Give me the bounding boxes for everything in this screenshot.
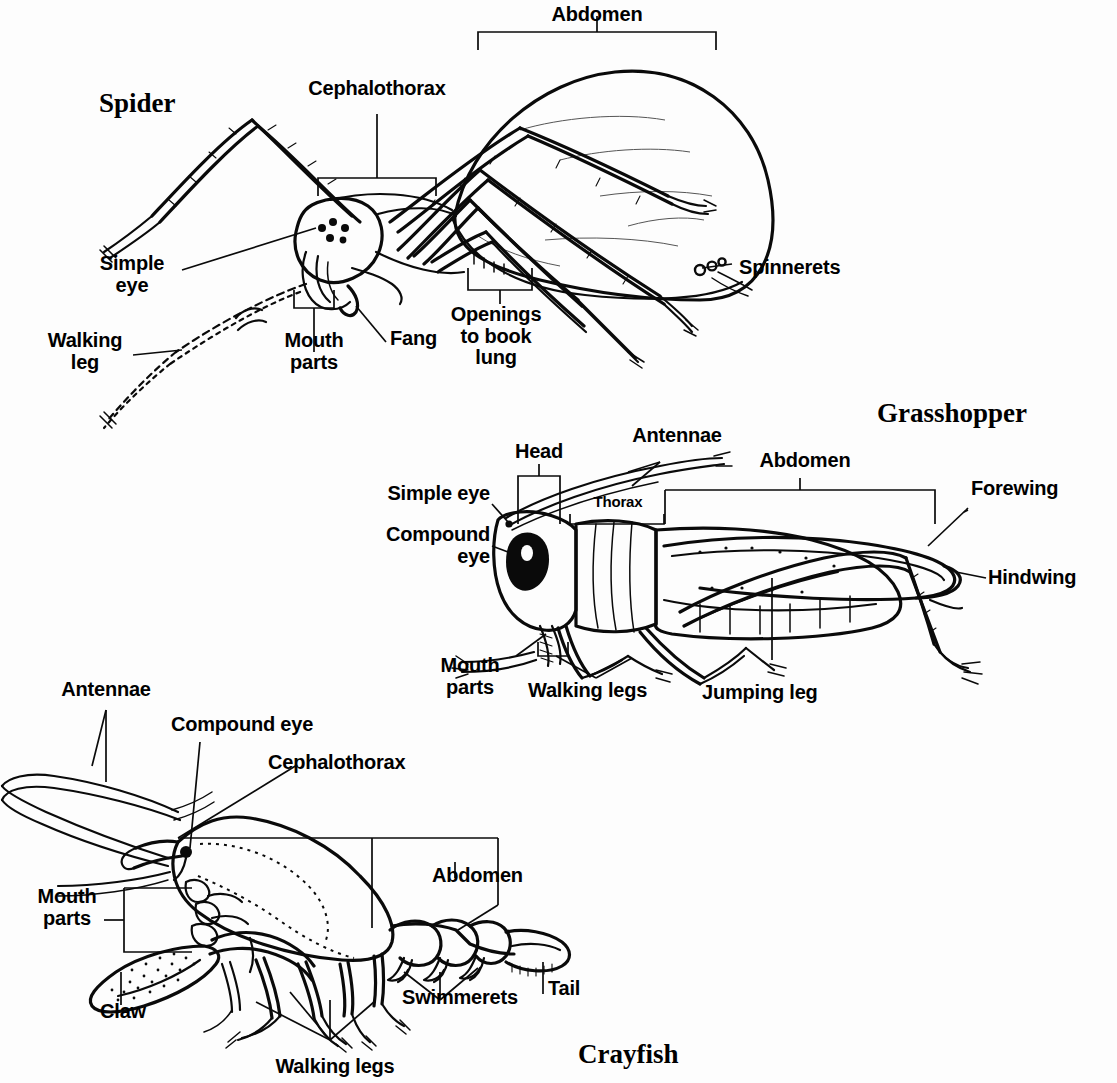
spider-title: Spider [99, 88, 176, 119]
spider-label-fang: Fang [390, 328, 437, 350]
grasshopper-label-antennae: Antennae [602, 425, 752, 447]
grasshopper-label-jumping-leg: Jumping leg [702, 682, 818, 704]
grasshopper-label-head: Head [489, 441, 589, 463]
grasshopper-label-hindwing: Hindwing [988, 567, 1076, 589]
crayfish-label-tail: Tail [548, 978, 580, 1000]
grasshopper-label-abdomen: Abdomen [730, 450, 880, 472]
grasshopper-label-thorax: Thorax [573, 494, 663, 510]
crayfish-label-claw: Claw [78, 1001, 168, 1023]
spider-label-simple-eye: Simple eye [82, 253, 182, 296]
grasshopper-label-walking-legs: Walking legs [528, 680, 647, 702]
crayfish-label-antennae: Antennae [46, 679, 166, 701]
crayfish-label-walking-legs: Walking legs [255, 1056, 415, 1078]
crayfish-label-abdomen: Abdomen [432, 865, 523, 887]
grasshopper-label-mouth-parts: Mouth parts [425, 655, 515, 698]
grasshopper-title: Grasshopper [877, 398, 1027, 429]
spider-label-abdomen: Abdomen [497, 4, 697, 26]
spider-label-cephalothorax: Cephalothorax [277, 78, 477, 100]
crayfish-label-mouth-parts: Mouth parts [22, 886, 112, 929]
grasshopper-illustration [452, 452, 986, 684]
crayfish-label-compound-eye: Compound eye [171, 714, 313, 736]
grasshopper-label-forewing: Forewing [971, 478, 1058, 500]
crayfish-title: Crayfish [578, 1039, 679, 1070]
spider-label-walking-leg: Walking leg [35, 330, 135, 373]
crayfish-label-swimmerets: Swimmerets [380, 987, 540, 1009]
spider-label-book-lung: Openings to book lung [441, 304, 551, 369]
spider-label-mouth-parts: Mouth parts [264, 330, 364, 373]
diagram-artwork [0, 0, 1117, 1083]
diagram-page: Spider Abdomen Cephalothorax Simple eye … [0, 0, 1117, 1083]
grasshopper-label-simple-eye: Simple eye [355, 483, 490, 505]
spider-label-spinnerets: Spinnerets [739, 257, 840, 279]
crayfish-label-cephalothorax: Cephalothorax [268, 752, 405, 774]
grasshopper-label-compound-eye: Compound eye [355, 524, 490, 567]
